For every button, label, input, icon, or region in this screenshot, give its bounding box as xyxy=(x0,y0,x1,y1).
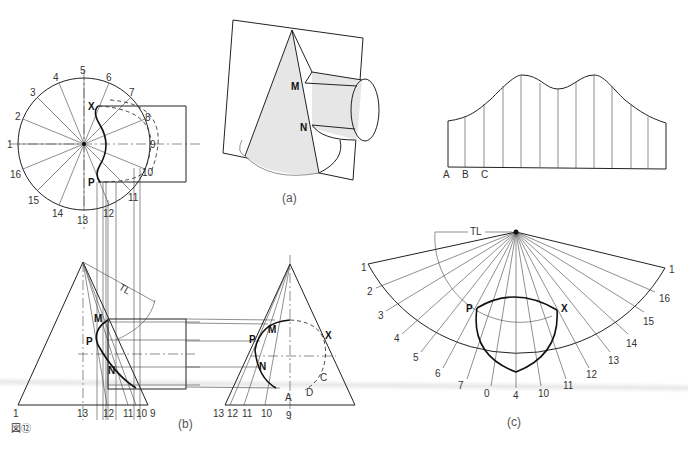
plan-label-11: 11 xyxy=(128,192,139,203)
dev-arc-label-3: 3 xyxy=(378,310,384,321)
elev-right-base-10: 10 xyxy=(261,408,273,419)
elev-left-base-10: 10 xyxy=(136,408,148,419)
elev-left-base-11: 11 xyxy=(123,408,134,419)
elevation-right-point-a: A xyxy=(285,392,292,403)
dev-arc-label-14: 14 xyxy=(626,338,638,349)
pictorial-point-m: M xyxy=(291,81,299,92)
elevation-left-point-n: N xyxy=(108,365,115,376)
elev-left-base-9: 9 xyxy=(150,408,156,419)
plan-label-13: 13 xyxy=(77,215,89,226)
plan-label-3: 3 xyxy=(30,87,36,98)
dev-arc-label-5: 5 xyxy=(413,352,419,363)
development-point-x: X xyxy=(561,303,568,314)
plan-label-12: 12 xyxy=(103,208,115,219)
development-point-p: P xyxy=(466,303,473,314)
pictorial-point-n: N xyxy=(300,122,307,133)
plan-label-14: 14 xyxy=(52,208,64,219)
elevation-left: TL M P N 1 13 12 11 10 9 xyxy=(13,262,200,420)
elevation-right-point-d: D xyxy=(306,387,313,398)
plan-label-2: 2 xyxy=(15,111,21,122)
elev-right-base-11: 11 xyxy=(242,408,253,419)
elevation-left-point-m: M xyxy=(94,313,102,324)
elevation-right-point-c: C xyxy=(320,372,327,383)
dev-arc-label-1-end: 1 xyxy=(669,264,675,275)
plan-label-16: 16 xyxy=(10,169,22,180)
caption-a: (a) xyxy=(282,191,297,205)
plan-label-4: 4 xyxy=(53,72,59,83)
plan-label-1: 1 xyxy=(7,139,13,150)
cylinder-development: A B C xyxy=(443,75,666,180)
dev-arc-label-1: 1 xyxy=(361,262,367,273)
dev-arc-label-11: 11 xyxy=(563,380,574,391)
development-tl-label: TL xyxy=(470,226,482,237)
elev-left-base-12: 12 xyxy=(103,408,115,419)
elevation-right-point-n: N xyxy=(259,361,266,372)
cone-development-c: TL P X 1 2 3 4 5 6 7 0 4 10 11 12 13 14 … xyxy=(361,226,675,429)
dev-arc-label-10: 10 xyxy=(538,388,550,399)
dev-arc-label-15: 15 xyxy=(643,316,655,327)
plan-label-7: 7 xyxy=(129,87,135,98)
elevation-right-point-x: X xyxy=(325,330,332,341)
dev-arc-label-16: 16 xyxy=(659,293,671,304)
elev-right-base-13: 13 xyxy=(213,408,225,419)
plan-label-10: 10 xyxy=(142,167,154,178)
elevation-right-point-m: M xyxy=(268,324,276,335)
technical-drawing: 1 2 3 4 5 6 7 8 9 10 11 12 13 14 15 16 X… xyxy=(0,0,688,452)
plan-label-5: 5 xyxy=(80,65,86,76)
caption-c: (c) xyxy=(507,415,521,429)
dev-arc-label-4: 4 xyxy=(394,333,400,344)
elevation-right-point-p: P xyxy=(249,334,256,345)
dev-arc-label-8: 0 xyxy=(484,388,490,399)
plan-label-6: 6 xyxy=(106,72,112,83)
plan-point-p: P xyxy=(88,177,95,188)
plan-point-x: X xyxy=(88,101,95,112)
dev-arc-label-13: 13 xyxy=(608,355,620,366)
dev-label-b: B xyxy=(462,169,469,180)
dev-label-c: C xyxy=(481,169,488,180)
elevation-right: P M N X A D C 13 12 11 10 9 xyxy=(213,255,355,421)
dev-arc-label-7: 7 xyxy=(458,380,464,391)
dev-label-a: A xyxy=(443,169,450,180)
elev-left-base-13: 13 xyxy=(77,408,89,419)
caption-b: (b) xyxy=(178,417,193,431)
figure-number: 図⑫ xyxy=(11,423,31,434)
elev-left-base-1: 1 xyxy=(13,408,19,419)
plan-label-15: 15 xyxy=(28,195,40,206)
dev-arc-label-2: 2 xyxy=(367,286,373,297)
elev-right-base-9: 9 xyxy=(286,410,292,421)
pictorial-view-a: M N (a) xyxy=(223,20,379,205)
dev-arc-label-12: 12 xyxy=(586,369,598,380)
elevation-tl-label: TL xyxy=(117,281,133,297)
dev-arc-label-6: 6 xyxy=(435,368,441,379)
plan-label-8: 8 xyxy=(145,112,151,123)
plan-label-9: 9 xyxy=(150,139,156,150)
elevation-left-point-p: P xyxy=(86,336,93,347)
dev-arc-label-9: 4 xyxy=(513,390,519,401)
elev-right-base-12: 12 xyxy=(227,408,239,419)
